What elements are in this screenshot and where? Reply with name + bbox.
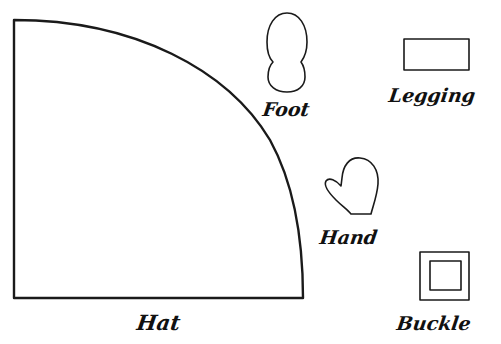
hat-pattern [14, 20, 303, 298]
hand-pattern [325, 158, 378, 214]
hand-label: Hand [318, 226, 378, 248]
buckle-inner-frame [430, 261, 461, 290]
buckle-label: Buckle [395, 312, 472, 334]
legging-pattern [404, 39, 469, 70]
foot-label: Foot [261, 98, 311, 120]
legging-label: Legging [387, 84, 476, 106]
hat-label: Hat [135, 310, 182, 335]
foot-pattern [267, 13, 307, 92]
pattern-sheet [0, 0, 501, 344]
